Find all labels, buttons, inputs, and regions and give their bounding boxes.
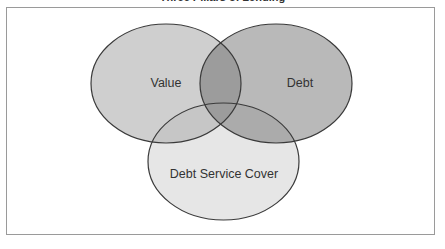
label-value: Value bbox=[150, 76, 181, 90]
venn-diagram: Value Debt Debt Service Cover bbox=[0, 0, 445, 249]
label-debt: Debt bbox=[287, 76, 314, 90]
label-dsc: Debt Service Cover bbox=[170, 167, 278, 181]
